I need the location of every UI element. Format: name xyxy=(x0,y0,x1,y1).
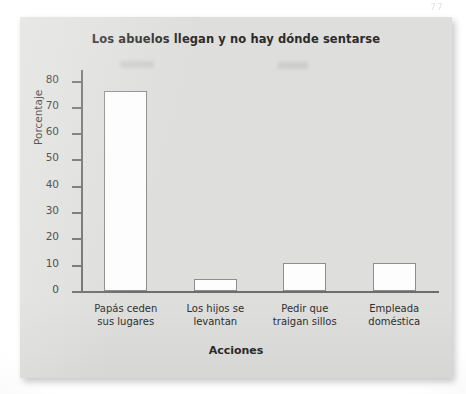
chart-panel: Los abuelos llegan y no hay dónde sentar… xyxy=(20,17,452,378)
y-tick-label-40: 40 xyxy=(46,178,59,190)
y-tick-label-80: 80 xyxy=(46,73,59,85)
bar-1 xyxy=(104,91,147,291)
x-category-line: doméstica xyxy=(350,315,440,328)
y-tick-label-30: 30 xyxy=(46,204,59,216)
x-category-label-4: Empleadadoméstica xyxy=(350,302,440,328)
x-category-label-2: Los hijos selevantan xyxy=(171,302,261,328)
y-tick-label-60: 60 xyxy=(46,125,59,137)
x-category-label-1: Papás cedensus lugares xyxy=(81,302,171,328)
x-category-line: levantan xyxy=(171,315,261,328)
page-number-artifact: 77 xyxy=(424,1,450,13)
x-axis-title: Acciones xyxy=(20,344,452,357)
y-tick-80: 80 xyxy=(72,81,81,83)
chart-title: Los abuelos llegan y no hay dónde sentar… xyxy=(20,32,452,46)
y-tick-label-70: 70 xyxy=(46,99,59,111)
plot-area: 01020304050607080 Papás cedensus lugares… xyxy=(81,70,439,293)
y-tick-label-20: 20 xyxy=(46,230,59,242)
y-tick-40: 40 xyxy=(72,186,81,188)
y-tick-70: 70 xyxy=(72,107,81,109)
x-category-line: sus lugares xyxy=(81,315,171,328)
x-category-label-3: Pedir quetraigan sillos xyxy=(260,302,350,328)
y-tick-50: 50 xyxy=(72,159,81,161)
scan-smudge-left xyxy=(120,61,154,68)
page-background: 77 Los abuelos llegan y no hay dónde sen… xyxy=(0,0,466,394)
y-axis-line xyxy=(81,70,83,293)
y-tick-60: 60 xyxy=(72,133,81,135)
x-category-line: Papás ceden xyxy=(81,302,171,315)
x-category-line: Pedir que xyxy=(260,302,350,315)
y-tick-label-50: 50 xyxy=(46,151,59,163)
bar-2 xyxy=(194,279,237,291)
y-axis-title: Porcentaje xyxy=(32,90,44,145)
y-tick-label-0: 0 xyxy=(52,283,59,295)
bar-4 xyxy=(373,263,416,291)
y-tick-10: 10 xyxy=(72,265,81,267)
scan-smudge-right xyxy=(278,62,308,69)
x-axis-line xyxy=(81,291,439,293)
y-tick-0: 0 xyxy=(72,291,81,293)
y-tick-30: 30 xyxy=(72,212,81,214)
x-category-line: Los hijos se xyxy=(171,302,261,315)
y-tick-label-10: 10 xyxy=(46,257,59,269)
bar-3 xyxy=(283,263,326,291)
x-category-line: traigan sillos xyxy=(260,315,350,328)
x-category-line: Empleada xyxy=(350,302,440,315)
y-tick-20: 20 xyxy=(72,238,81,240)
